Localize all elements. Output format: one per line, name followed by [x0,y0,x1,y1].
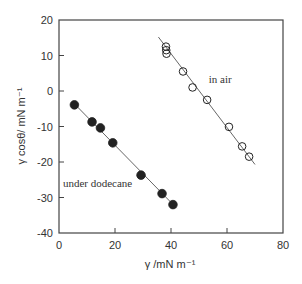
x-tick-label: 40 [165,239,177,251]
series-annotation: under dodecane [63,177,132,189]
filled-circle-marker [88,118,97,127]
y-tick-label: -20 [37,156,53,168]
y-tick-label: 0 [47,85,53,97]
y-tick-label: -30 [37,192,53,204]
y-tick-label: -40 [37,227,53,239]
open-circle-marker [179,68,187,76]
open-circle-marker [203,96,211,104]
annotations: in airunder dodecane [63,73,232,189]
open-circle-marker [163,50,171,58]
x-tick-label: 60 [221,239,233,251]
x-tick-label: 20 [109,239,121,251]
series-annotation: in air [209,73,232,85]
x-axis-label: γ /mN m⁻¹ [145,258,196,270]
filled-circle-marker [108,139,117,148]
open-circle-marker [238,143,246,151]
x-tick-label: 80 [277,239,289,251]
filled-circle-marker [96,124,105,133]
y-tick-label: -10 [37,121,53,133]
scatter-chart: 02040608020100-10-20-30-40 in airunder d… [0,0,302,284]
open-circle-marker [225,123,233,131]
x-tick-label: 0 [56,239,62,251]
filled-circle-marker [158,189,167,198]
y-tick-label: 20 [41,14,53,26]
filled-circle-marker [137,171,146,180]
filled-circle-marker [169,200,178,209]
filled-circle-marker [70,101,79,110]
open-circle-marker [245,153,253,161]
y-axis-label: γ cosθ/ mN m⁻¹ [15,87,27,164]
open-circle-marker [189,84,197,92]
y-tick-label: 10 [41,50,53,62]
